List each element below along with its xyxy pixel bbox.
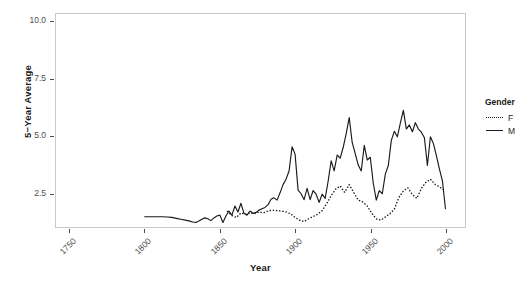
x-tick-mark (446, 229, 447, 233)
y-tick-mark (50, 79, 54, 80)
chart-figure: 5−Year Average 2.55.07.510.0 17501800185… (0, 0, 532, 287)
y-tick-label: 5.0 (12, 131, 46, 140)
legend: Gender F M (485, 97, 531, 137)
legend-key-dotted-icon (485, 112, 504, 123)
x-tick-mark (220, 229, 221, 233)
x-tick-mark (295, 229, 296, 233)
y-tick-label: 7.5 (12, 74, 46, 83)
y-tick-mark (50, 194, 54, 195)
x-tick-mark (69, 229, 70, 233)
plot-panel (55, 13, 466, 228)
y-tick-label: 10.0 (12, 16, 46, 25)
line-series-f (227, 179, 445, 221)
line-series-m (145, 110, 446, 222)
plot-lines (56, 14, 465, 227)
y-tick-mark (50, 136, 54, 137)
x-tick-mark (371, 229, 372, 233)
y-tick-label: 2.5 (12, 189, 46, 198)
x-tick-mark (144, 229, 145, 233)
legend-label-f: F (504, 113, 513, 123)
x-axis-title: Year (55, 262, 466, 273)
legend-label-m: M (504, 126, 515, 136)
legend-title: Gender (485, 97, 531, 107)
y-axis: 5−Year Average (9, 0, 55, 287)
y-tick-mark (50, 21, 54, 22)
y-axis-title: 5−Year Average (22, 32, 33, 172)
legend-key-solid-icon (485, 125, 504, 136)
legend-item-m[interactable]: M (485, 124, 531, 137)
legend-item-f[interactable]: F (485, 111, 531, 124)
